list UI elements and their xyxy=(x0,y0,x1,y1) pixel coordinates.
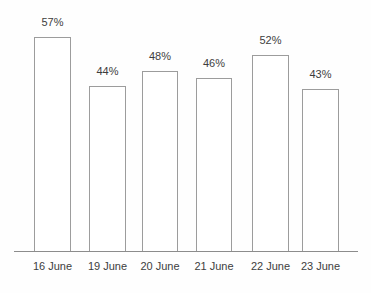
x-axis-tick-label: 19 June xyxy=(77,260,138,273)
bar xyxy=(142,71,178,251)
bar xyxy=(302,89,339,251)
bar-value-label: 46% xyxy=(184,57,244,70)
x-axis-tick-label: 20 June xyxy=(130,260,190,273)
x-axis-tick-label: 16 June xyxy=(22,260,83,273)
bar-value-label: 48% xyxy=(130,50,190,63)
bar-value-label: 57% xyxy=(22,16,83,29)
bar xyxy=(196,78,232,251)
bar-value-label: 52% xyxy=(240,34,301,47)
bar xyxy=(89,86,126,251)
bar-value-label: 43% xyxy=(290,68,351,81)
x-axis-tick-label: 23 June xyxy=(290,260,351,273)
bar-chart: 57%16 June44%19 June48%20 June46%21 June… xyxy=(0,0,371,293)
bar-value-label: 44% xyxy=(77,65,138,78)
x-axis-tick-label: 21 June xyxy=(184,260,244,273)
x-axis-line xyxy=(14,251,358,252)
bar xyxy=(34,37,71,251)
bar xyxy=(252,55,289,251)
